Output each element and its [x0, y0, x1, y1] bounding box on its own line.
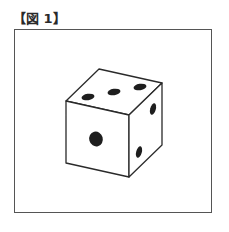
dice-illustration — [0, 0, 229, 232]
die-cube — [66, 69, 162, 177]
